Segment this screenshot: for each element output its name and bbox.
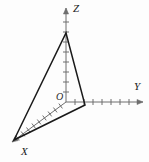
x-axis-tick	[43, 116, 47, 121]
x-axis-tick	[53, 108, 57, 113]
x-axis-label: X	[20, 145, 29, 157]
figure-container: Z Y X O	[0, 0, 149, 162]
x-axis-tick	[32, 124, 36, 129]
y-axis-label: Y	[134, 80, 142, 92]
triangle-shape	[14, 33, 85, 140]
x-axis-tick	[37, 120, 41, 125]
y-axis-arrowhead	[137, 99, 143, 104]
x-axis-tick	[59, 104, 63, 109]
z-axis-label: Z	[73, 2, 80, 14]
x-axis-tick	[48, 112, 52, 117]
coordinate-diagram: Z Y X O	[0, 0, 149, 162]
origin-label: O	[56, 91, 63, 102]
z-axis-arrowhead	[63, 8, 68, 14]
